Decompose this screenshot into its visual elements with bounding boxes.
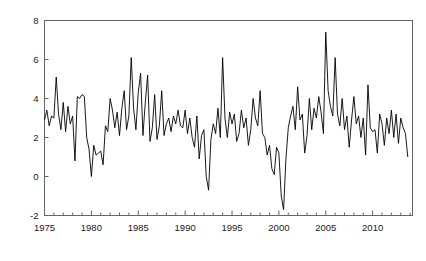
y-tick-label: 2 xyxy=(33,132,38,143)
time-series-chart: -202468 19751980198519901995200020052010 xyxy=(0,0,426,261)
x-tick-label: 1990 xyxy=(175,222,196,233)
x-tick-label: 1975 xyxy=(34,222,55,233)
y-tick-label: 0 xyxy=(33,171,38,182)
x-tick-label: 1995 xyxy=(221,222,242,233)
x-tick-label: 2000 xyxy=(268,222,289,233)
y-tick-label: 8 xyxy=(33,15,38,26)
x-tick-label: 2005 xyxy=(315,222,336,233)
x-tick-label: 2010 xyxy=(362,222,383,233)
y-tick-label: 4 xyxy=(33,93,38,104)
y-tick-label: 6 xyxy=(33,54,38,65)
x-tick-label: 1980 xyxy=(81,222,102,233)
y-tick-label: -2 xyxy=(30,210,38,221)
x-tick-label: 1985 xyxy=(128,222,149,233)
chart-root: -202468 19751980198519901995200020052010 xyxy=(0,0,426,261)
